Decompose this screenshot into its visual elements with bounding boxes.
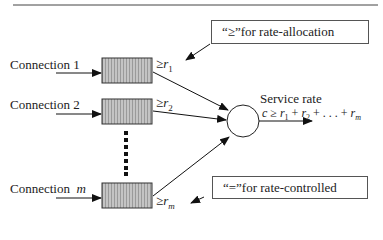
- service-rate-title: Service rate: [260, 91, 322, 106]
- rate-1: ≥r1: [156, 56, 173, 74]
- queue-m: [102, 183, 152, 208]
- queue-1: [102, 58, 152, 83]
- rate-m-sub: m: [168, 201, 175, 211]
- connection-m-label: Connection m: [10, 181, 86, 197]
- rate-2-sub: 2: [168, 103, 173, 113]
- service-rate-formula: c ≥ r1 + r2 + . . . + rm: [262, 106, 361, 125]
- rate-m: ≥rm: [156, 193, 175, 211]
- server-circle: [227, 105, 259, 137]
- connection-1-label: Connection 1: [10, 57, 80, 73]
- connection-2-label: Connection 2: [10, 97, 80, 113]
- queue-2: [102, 99, 152, 124]
- rate-1-sub: 1: [168, 64, 173, 74]
- note-rate-allocation: “≥”for rate-allocation: [211, 20, 369, 44]
- rate-2: ≥r2: [156, 95, 173, 113]
- connection-m-var: m: [76, 181, 85, 196]
- note-rate-controlled: “=”for rate-controlled: [212, 176, 368, 199]
- note-top-pointer: [186, 44, 210, 60]
- ellipsis-dots: [124, 131, 128, 176]
- connection-m-text: Connection: [10, 181, 70, 196]
- note-bottom-pointer: [191, 197, 204, 203]
